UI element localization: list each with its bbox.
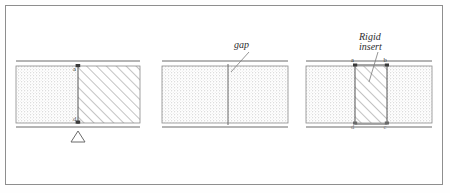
panel3-corner-label-b: b <box>384 56 387 63</box>
panel2-gap-label: gap <box>234 39 249 50</box>
panel1-stippled-segment <box>16 66 78 123</box>
panel1-node-marker-top <box>76 64 81 67</box>
panel2-stippled-body <box>162 66 288 123</box>
figure-container: a d gap <box>0 0 450 193</box>
panel3-node-marker-b <box>385 64 389 67</box>
panel3-corner-label-a: a <box>351 56 354 63</box>
panel-2-beam-with-gap: gap <box>162 39 288 127</box>
panel-1-beam-with-hatched-segment: a d <box>16 61 140 142</box>
panel1-node-marker-bottom <box>76 121 81 124</box>
panel3-rigid-insert-label-line2: insert <box>359 41 382 52</box>
panel3-corner-label-c: c <box>384 123 387 130</box>
panel1-hatched-segment <box>78 66 140 123</box>
diagram-canvas: a d gap <box>0 0 450 193</box>
panel1-pin-support-triangle <box>71 131 85 142</box>
panel3-node-marker-a <box>353 64 357 67</box>
panel1-node-label-top: a <box>73 65 76 72</box>
panel-3-beam-with-rigid-insert: a b d c Rigid insert <box>306 31 432 130</box>
